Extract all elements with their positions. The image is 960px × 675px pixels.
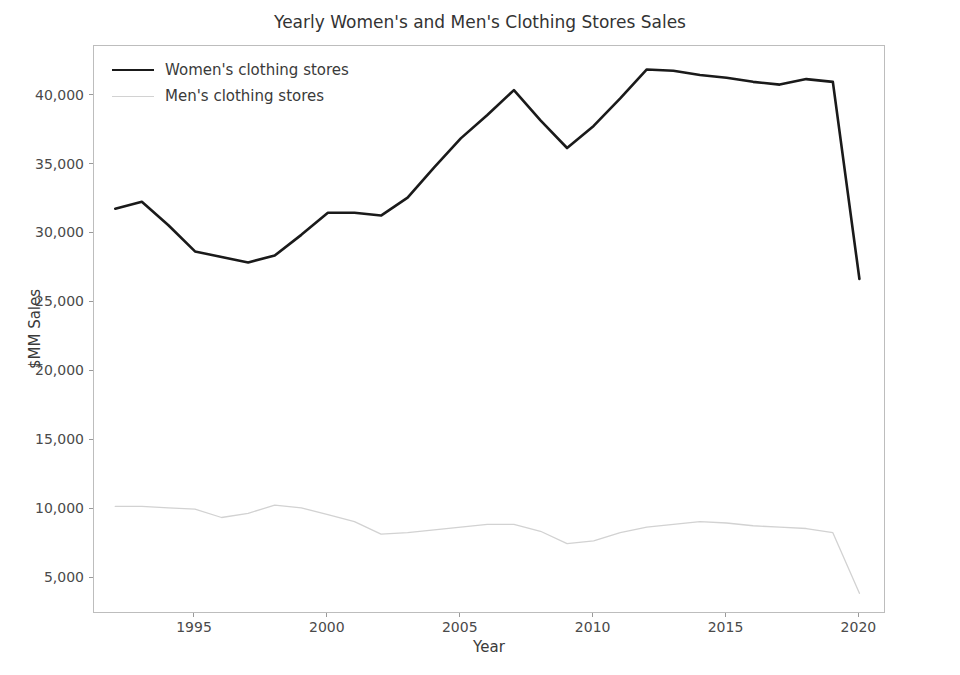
y-tick-label: 35,000 — [35, 156, 84, 172]
y-tick-mark — [89, 439, 93, 440]
x-tick-label: 2020 — [841, 619, 877, 635]
y-tick-mark — [89, 232, 93, 233]
y-tick-mark — [89, 301, 93, 302]
x-tick-label: 1995 — [176, 619, 212, 635]
y-tick-label: 30,000 — [35, 224, 84, 240]
y-tick-mark — [89, 94, 93, 95]
chart-title: Yearly Women's and Men's Clothing Stores… — [0, 12, 960, 32]
chart-figure: Yearly Women's and Men's Clothing Stores… — [0, 0, 960, 675]
legend-item[interactable]: Women's clothing stores — [112, 57, 349, 83]
y-tick-label: 5,000 — [44, 569, 84, 585]
y-tick-mark — [89, 577, 93, 578]
y-tick-label: 40,000 — [35, 87, 84, 103]
x-tick-mark — [725, 613, 726, 617]
y-tick-label: 20,000 — [35, 362, 84, 378]
x-axis-title: Year — [93, 638, 885, 656]
series-line-2 — [115, 505, 859, 593]
legend-swatch-line-icon — [112, 96, 154, 97]
y-tick-label: 25,000 — [35, 293, 84, 309]
y-tick-label: 10,000 — [35, 500, 84, 516]
y-axis-tick-labels: 5,00010,00015,00020,00025,00030,00035,00… — [0, 0, 84, 675]
legend-item[interactable]: Men's clothing stores — [112, 83, 349, 109]
x-tick-label: 2005 — [442, 619, 478, 635]
legend-label: Men's clothing stores — [165, 87, 324, 105]
plot-lines — [94, 46, 886, 614]
plot-area — [93, 45, 885, 613]
x-tick-mark — [193, 613, 194, 617]
chart-legend: Women's clothing storesMen's clothing st… — [108, 55, 353, 111]
x-tick-mark — [326, 613, 327, 617]
x-tick-label: 2010 — [575, 619, 611, 635]
x-tick-mark — [592, 613, 593, 617]
y-tick-mark — [89, 508, 93, 509]
legend-swatch-line-icon — [112, 69, 154, 71]
legend-label: Women's clothing stores — [165, 61, 349, 79]
x-tick-mark — [858, 613, 859, 617]
y-tick-mark — [89, 370, 93, 371]
x-tick-label: 2000 — [309, 619, 345, 635]
y-tick-label: 15,000 — [35, 431, 84, 447]
y-tick-mark — [89, 163, 93, 164]
x-tick-label: 2015 — [708, 619, 744, 635]
x-tick-mark — [459, 613, 460, 617]
